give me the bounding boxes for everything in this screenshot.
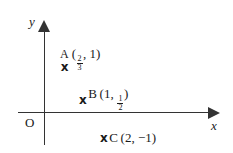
point-a-cross-marker-icon: x — [61, 61, 68, 73]
point-b-coordinates: B (1, 12) — [88, 87, 128, 112]
point-b-cross-marker-icon: x — [79, 94, 86, 106]
point-a-close-paren: ) — [96, 46, 100, 61]
origin-label: O — [25, 116, 34, 129]
point-c-coordinates: C (2, −1) — [109, 131, 156, 144]
point-a-coordinates: (23, 1) — [72, 47, 101, 72]
point-c-y-value: −1 — [138, 130, 152, 145]
point-b-y-numerator: 1 — [117, 95, 123, 103]
point-b-close-paren: ) — [124, 86, 128, 101]
point-c-close-paren: ) — [152, 130, 156, 145]
point-b-separator: , — [110, 86, 117, 101]
point-a-x-numerator: 2 — [77, 55, 83, 63]
y-axis-label: y — [29, 15, 35, 28]
x-axis-label: x — [211, 119, 217, 132]
plotted-point-c: x C (2, −1) — [100, 131, 156, 144]
plotted-point-b: x B (1, 12) — [79, 87, 128, 112]
point-a-label: A — [60, 48, 69, 60]
point-b-label: B — [88, 86, 97, 101]
point-c-cross-marker-icon: x — [100, 132, 107, 144]
point-b-y-fraction: 12 — [117, 95, 123, 112]
y-axis-line — [44, 28, 45, 145]
point-a-x-denominator: 3 — [77, 63, 83, 72]
point-a-open-paren: ( — [72, 46, 76, 61]
point-a-x-fraction: 23 — [77, 55, 83, 72]
x-axis-arrowhead-icon — [208, 107, 220, 119]
point-c-label: C — [109, 130, 118, 145]
y-axis-arrowhead-icon — [38, 20, 50, 32]
point-b-y-denominator: 2 — [117, 103, 123, 112]
point-a-marker-group: A x — [60, 48, 69, 73]
plotted-point-a: A x (23, 1) — [60, 47, 100, 73]
coordinate-plane-figure: y x O A x (23, 1) x B (1, 12) x C (2, −1… — [0, 0, 233, 153]
